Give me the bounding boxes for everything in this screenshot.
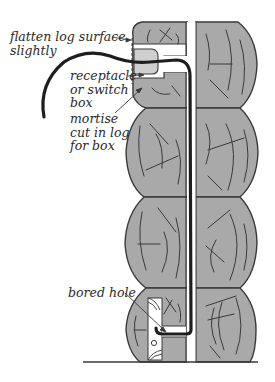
log-2-left: [126, 108, 188, 197]
log-3-left: [125, 197, 188, 288]
label-receptacle-or-switch-box: receptacle or switch box: [70, 69, 137, 110]
log-3-right: [195, 197, 257, 288]
screw-icon: [151, 340, 156, 345]
label-bored-hole: bored hole: [68, 286, 136, 300]
log-2-right: [195, 108, 258, 197]
label-mortise-cut: mortise cut in log for box: [70, 112, 130, 153]
right-log-column: [195, 22, 258, 362]
log-1-right: [195, 22, 257, 108]
label-flatten-log-surface: flatten log surface slightly: [10, 30, 126, 57]
